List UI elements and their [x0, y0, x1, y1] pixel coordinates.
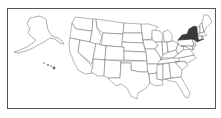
- us-map: [0, 0, 221, 118]
- state-maine[interactable]: [202, 15, 212, 32]
- state-wyoming[interactable]: [101, 33, 123, 47]
- state-montana[interactable]: [96, 19, 124, 34]
- state-alaska[interactable]: [14, 16, 64, 53]
- state-mississippi[interactable]: [157, 64, 163, 80]
- state-colorado[interactable]: [105, 46, 124, 60]
- state-north-dakota[interactable]: [123, 23, 142, 33]
- state-rhode-island[interactable]: [202, 36, 203, 38]
- state-wisconsin[interactable]: [152, 30, 163, 42]
- state-hawaii[interactable]: [43, 62, 55, 69]
- state-south-dakota[interactable]: [122, 33, 143, 43]
- state-florida[interactable]: [165, 77, 190, 98]
- state-arizona[interactable]: [91, 59, 105, 76]
- state-michigan[interactable]: [163, 30, 172, 42]
- state-new-mexico[interactable]: [104, 60, 121, 78]
- state-arkansas[interactable]: [147, 64, 158, 74]
- state-nebraska[interactable]: [122, 42, 146, 52]
- state-kansas[interactable]: [124, 51, 147, 61]
